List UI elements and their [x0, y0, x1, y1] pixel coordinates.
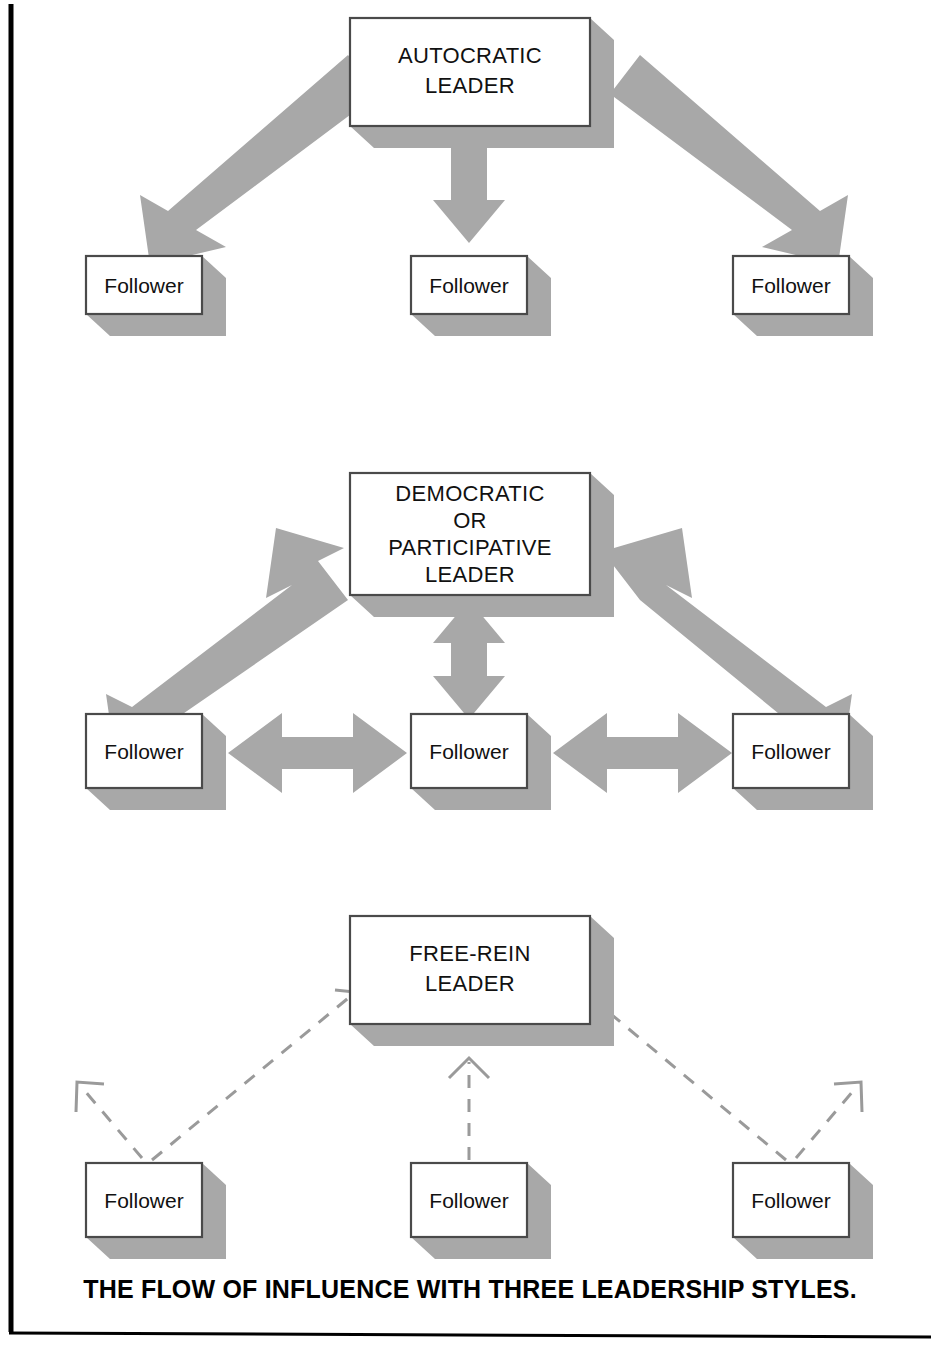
follower-label: Follower — [429, 274, 508, 297]
section-autocratic: AUTOCRATIC LEADER Follower Follower Foll… — [86, 18, 873, 336]
leader-box-autocratic: AUTOCRATIC LEADER — [350, 18, 614, 148]
arrow-autocratic-middle — [433, 143, 505, 243]
follower-box-free-rein-2: Follower — [411, 1163, 551, 1259]
follower-label: Follower — [104, 740, 183, 763]
figure-caption: THE FLOW OF INFLUENCE WITH THREE LEADERS… — [83, 1275, 857, 1303]
section-democratic: DEMOCRATIC OR PARTICIPATIVE LEADER Follo… — [86, 473, 873, 810]
arrow-autocratic-left — [140, 55, 378, 265]
follower-box-democratic-2: Follower — [411, 714, 551, 810]
section-free-rein: FREE-REIN LEADER Follower Follower Follo… — [76, 916, 873, 1259]
leader-label-line-2: LEADER — [425, 73, 515, 98]
leader-label-line-3: PARTICIPATIVE — [388, 535, 552, 560]
leader-label-line-2: LEADER — [425, 971, 515, 996]
dashed-arrow-freerein-right-to-leader — [585, 990, 786, 1160]
follower-label: Follower — [104, 274, 183, 297]
leader-box-democratic: DEMOCRATIC OR PARTICIPATIVE LEADER — [350, 473, 614, 617]
follower-label: Follower — [104, 1189, 183, 1212]
follower-box-free-rein-3: Follower — [733, 1163, 873, 1259]
leader-label-line-4: LEADER — [425, 562, 515, 587]
follower-box-autocratic-2: Follower — [411, 256, 551, 336]
follower-label: Follower — [429, 1189, 508, 1212]
arrow-democratic-vertical — [433, 600, 505, 719]
follower-box-democratic-1: Follower — [86, 714, 226, 810]
follower-box-free-rein-1: Follower — [86, 1163, 226, 1259]
leader-label-line-1: DEMOCRATIC — [395, 481, 544, 506]
arrow-democratic-horiz-right — [553, 713, 732, 793]
follower-box-democratic-3: Follower — [733, 714, 873, 810]
leadership-flow-diagram: AUTOCRATIC LEADER Follower Follower Foll… — [0, 0, 931, 1352]
leader-label-line-1: FREE-REIN — [409, 941, 530, 966]
dashed-arrow-freerein-left-to-leader — [152, 990, 355, 1160]
follower-label: Follower — [751, 740, 830, 763]
arrow-democratic-horiz-left — [228, 713, 407, 793]
leader-box-free-rein: FREE-REIN LEADER — [350, 916, 614, 1046]
follower-label: Follower — [751, 1189, 830, 1212]
follower-box-autocratic-1: Follower — [86, 256, 226, 336]
leader-label-line-1: AUTOCRATIC — [398, 43, 542, 68]
follower-label: Follower — [751, 274, 830, 297]
dashed-arrow-freerein-right-outward — [796, 1082, 862, 1158]
arrow-autocratic-right — [610, 55, 848, 265]
figure-page: AUTOCRATIC LEADER Follower Follower Foll… — [0, 0, 931, 1352]
follower-label: Follower — [429, 740, 508, 763]
follower-box-autocratic-3: Follower — [733, 256, 873, 336]
dashed-arrow-freerein-middle-to-leader — [449, 1058, 489, 1160]
dashed-arrow-freerein-left-outward — [76, 1082, 142, 1158]
leader-label-line-2: OR — [453, 508, 487, 533]
